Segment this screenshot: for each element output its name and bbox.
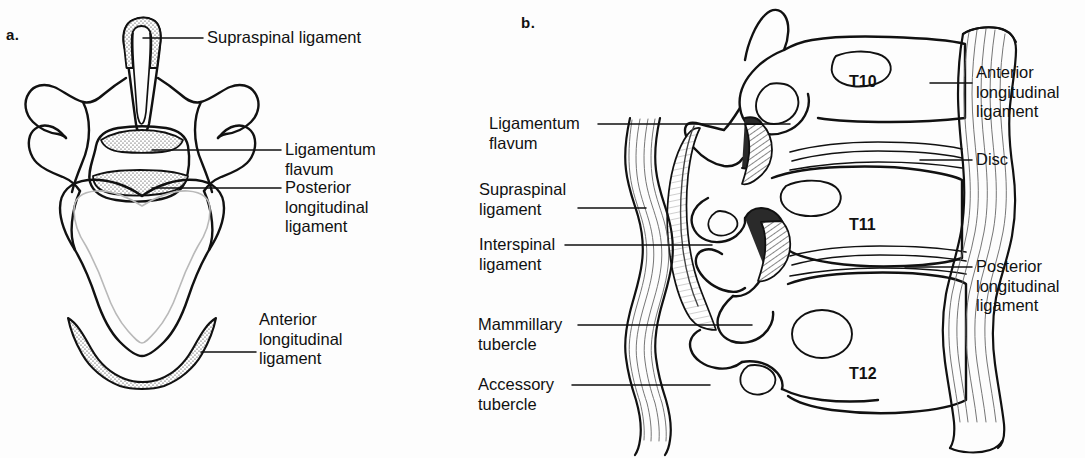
panel-a-vertebra: [26, 18, 281, 389]
label-anterior-longitudinal-ligament-a: Anterior longitudinal ligament: [259, 310, 342, 369]
vertebra-label-t11: T11: [849, 216, 876, 234]
anterior-longitudinal-ligament-stipple: [68, 318, 216, 389]
panel-b-vertebrae: [565, 10, 1016, 455]
label-interspinal-ligament-b: Interspinal ligament: [479, 235, 555, 274]
t10-lamina: [724, 108, 740, 130]
label-supraspinal-ligament-b: Supraspinal ligament: [479, 180, 566, 219]
t11-costal-facet: [781, 181, 841, 217]
label-ligamentum-flavum-a: Ligamentum flavum: [285, 140, 376, 179]
label-posterior-longitudinal-ligament-a: Posterior longitudinal ligament: [285, 178, 368, 237]
right-pedicle-inner: [195, 102, 212, 192]
label-supraspinal-ligament-a: Supraspinal ligament: [207, 28, 361, 48]
left-superior-articular-process: [29, 125, 80, 191]
t12-body: [788, 273, 966, 413]
t10-facet-oval: [756, 83, 798, 124]
right-superior-articular-process: [204, 125, 255, 191]
label-accessory-tubercle-b: Accessory tubercle: [478, 375, 554, 414]
t12-superior-articular: [718, 296, 774, 343]
t11-mammillary-tubercle: [708, 211, 737, 236]
label-anterior-longitudinal-ligament-b: Anterior longitudinal ligament: [976, 63, 1059, 122]
left-pedicle-inner: [72, 102, 89, 192]
t12-accessory-tubercle-oval: [740, 365, 775, 395]
t12-costal-facet: [792, 310, 852, 358]
label-disc-b: Disc: [976, 150, 1008, 170]
t11-spinous-process: [696, 249, 745, 292]
anatomy-figure: a. b. Supraspinal ligament Ligamentum fl…: [0, 0, 1085, 458]
t12-spinous-process: [690, 330, 742, 369]
label-posterior-longitudinal-ligament-b: Posterior longitudinal ligament: [976, 257, 1059, 316]
panel-b-letter: b.: [521, 14, 535, 31]
t10-body-superior: [745, 10, 965, 122]
vertebra-label-t12: T12: [849, 365, 877, 383]
vertebra-label-t10: T10: [849, 73, 877, 91]
label-mammillary-tubercle-b: Mammillary tubercle: [478, 315, 562, 354]
panel-a-letter: a.: [6, 26, 20, 43]
label-ligamentum-flavum-b: Ligamentum flavum: [489, 114, 580, 153]
supraspinal-ligament-stipple: [123, 18, 160, 68]
